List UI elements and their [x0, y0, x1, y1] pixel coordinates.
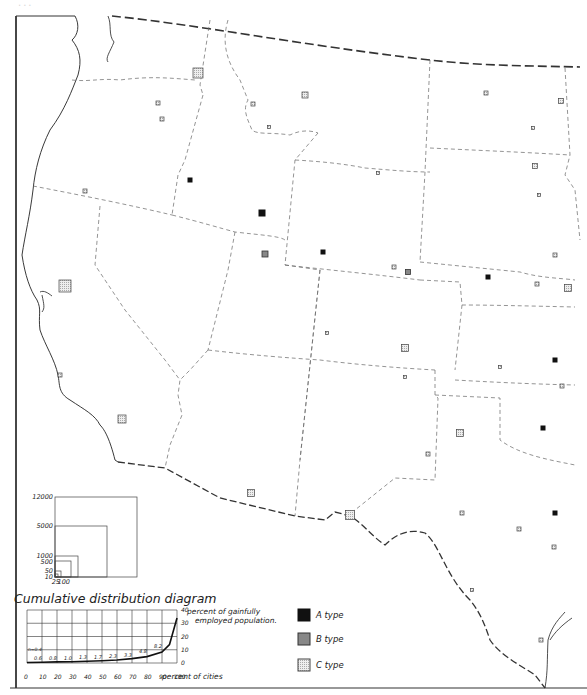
city-marker-a-type [541, 426, 545, 430]
chart-xtick: 60 [114, 673, 122, 680]
city-marker-c-type [484, 91, 488, 95]
chart-xtick: 0 [24, 673, 28, 680]
chart-segment-label: 4.8 [139, 648, 147, 654]
city-marker-c-type [83, 189, 87, 193]
city-marker-a-type [553, 358, 557, 362]
chart-segment-label: 0.8 [49, 655, 57, 661]
pacific-coastline [22, 16, 118, 462]
city-marker-c-type [517, 527, 521, 531]
city-marker-c-type [160, 117, 164, 121]
city-marker-a-type [188, 178, 192, 182]
puget-sound [107, 16, 114, 62]
city-marker-c-type [565, 285, 572, 292]
gulf-coast [545, 612, 572, 688]
city-marker-c-type [251, 102, 255, 106]
city-marker-c-type [539, 638, 543, 642]
scale-label-5000: 5000 [36, 522, 53, 530]
mexico-border [118, 462, 545, 688]
size-scale: 12000 5000 1000 500 50 10 25 100 [32, 493, 137, 586]
scale-label-12000: 12000 [32, 493, 53, 501]
chart-xtick: 40 [84, 673, 92, 680]
city-marker-c-type [193, 68, 203, 78]
city-marker-c-type [404, 376, 407, 379]
chart-xtick: 50 [99, 673, 107, 680]
city-marker-c-type [118, 415, 126, 423]
chart-title: Cumulative distribution diagram [14, 591, 217, 606]
chart-xtick: 10 [39, 673, 47, 680]
city-marker-c-type [532, 127, 535, 130]
chart-annotation-n: n=0.4 [28, 647, 42, 652]
chart-ytick: 0 [181, 659, 185, 666]
city-marker-c-type [346, 511, 355, 520]
chart-ytick: 10 [181, 646, 189, 653]
chart-segment-label: 8.2 [154, 643, 162, 649]
chart-segment-label: 3.3 [124, 652, 132, 658]
svg-text:C type: C type [316, 660, 344, 670]
city-marker-a-type [259, 210, 265, 216]
city-marker-c-type [471, 589, 474, 592]
chart-segment-label: 1.0 [64, 655, 72, 661]
svg-text:B type: B type [316, 634, 344, 644]
city-marker-c-type [248, 490, 255, 497]
city-marker-a-type [486, 275, 490, 279]
city-marker-c-type [326, 332, 329, 335]
chart-xtick: 20 [54, 673, 62, 680]
chart-segment-label: 1.3 [79, 654, 87, 660]
city-marker-c-type [533, 164, 538, 169]
city-marker-c-type [156, 101, 160, 105]
chart-segment-label: 2.3 [109, 653, 117, 659]
city-marker-c-type [377, 172, 380, 175]
chart-ylabel-2: employed population. [195, 616, 277, 625]
city-marker-c-type [560, 384, 564, 388]
city-marker-b-type [262, 251, 268, 257]
cumulative-chart: Cumulative distribution diagram 01020304… [14, 591, 277, 681]
chart-ylabel-1: percent of gainfully [186, 607, 261, 616]
chart-ytick: 20 [181, 633, 189, 640]
city-marker-c-type [58, 373, 62, 377]
city-marker-c-type [302, 92, 308, 98]
scale-label-100: 100 [58, 578, 70, 586]
chart-ytick: 30 [181, 619, 189, 626]
scale-label-500: 500 [41, 558, 53, 566]
city-marker-c-type [392, 265, 396, 269]
legend-item-b-type: B type [298, 633, 344, 645]
city-marker-c-type [538, 194, 541, 197]
svg-text:A type: A type [315, 610, 344, 620]
chart-xtick: 70 [129, 673, 137, 680]
legend-item-a-type: A type [298, 609, 344, 621]
city-marker-b-type [406, 270, 411, 275]
city-marker-c-type [460, 511, 464, 515]
city-marker-c-type [402, 345, 409, 352]
city-marker-a-type [321, 250, 325, 254]
city-marker-a-type [553, 511, 557, 515]
sf-bay [40, 291, 52, 312]
city-marker-c-type [426, 452, 430, 456]
legend-item-c-type: C type [298, 659, 344, 671]
chart-xtick: 80 [144, 673, 152, 680]
chart-xtick: 30 [69, 673, 77, 680]
city-marker-c-type [457, 430, 464, 437]
city-markers [58, 68, 572, 642]
western-us-map: 12000 5000 1000 500 50 10 25 100 Cumulat… [0, 0, 587, 695]
city-marker-c-type [535, 282, 539, 286]
legend: A type B type C type [298, 609, 344, 671]
city-marker-c-type [499, 366, 502, 369]
chart-segment-label: 0.6 [34, 655, 42, 661]
chart-xlabel: percent of cities [161, 672, 223, 681]
map-frame [10, 16, 587, 688]
city-marker-c-type [268, 126, 271, 129]
canada-border [112, 16, 580, 67]
city-marker-c-type [59, 280, 71, 292]
city-marker-c-type [559, 99, 564, 104]
chart-segment-label: 1.7 [94, 654, 103, 660]
city-marker-c-type [553, 253, 557, 257]
city-marker-c-type [552, 545, 556, 549]
